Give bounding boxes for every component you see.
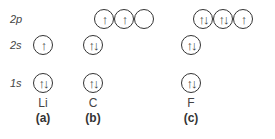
level-2p-label: 2p (10, 13, 22, 25)
c-2p-orbital-3 (134, 9, 154, 29)
c-1s-orbital: ↑↓ (83, 73, 103, 93)
level-1s-label: 1s (10, 77, 22, 89)
level-2s-label: 2s (10, 39, 22, 51)
li-2s-orbital: ↑ (33, 35, 53, 55)
c-2p-orbital-2: ↑ (114, 9, 134, 29)
f-1s-orbital: ↑↓ (181, 73, 201, 93)
li-1s-orbital: ↑↓ (33, 73, 53, 93)
c-label: (b) (78, 111, 108, 125)
f-2s-orbital: ↑↓ (181, 35, 201, 55)
c-2p-orbital-1: ↑ (94, 9, 114, 29)
f-2p-orbital-1: ↑↓ (193, 9, 213, 29)
c-2s-orbital: ↑↓ (83, 35, 103, 55)
f-2p-orbital-3: ↑ (233, 9, 253, 29)
li-symbol: Li (28, 96, 58, 110)
f-symbol: F (176, 96, 206, 110)
c-symbol: C (78, 96, 108, 110)
f-2p-orbital-2: ↑↓ (213, 9, 233, 29)
li-label: (a) (28, 111, 58, 125)
f-label: (c) (176, 111, 206, 125)
